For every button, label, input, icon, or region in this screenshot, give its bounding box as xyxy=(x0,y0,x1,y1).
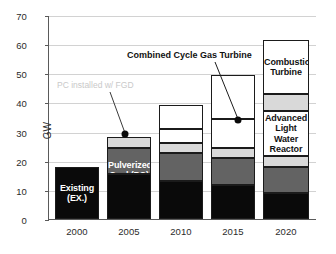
ytick-label-60: 60 xyxy=(1,40,27,51)
ytick-label-30: 30 xyxy=(1,127,27,138)
existing-label-line2: (EX.) xyxy=(67,193,87,203)
annotation-ccgt-title: Combined Cycle Gas Turbine xyxy=(127,50,252,61)
segment-existing-2000[interactable]: Existing (EX.) xyxy=(55,167,99,219)
xtick-label-2010: 2010 xyxy=(159,226,203,237)
annotation-dot-2015 xyxy=(235,117,242,124)
ytick-20 xyxy=(45,162,49,163)
bar-2010[interactable] xyxy=(159,105,203,219)
segment-combustion-turbine-2010[interactable] xyxy=(159,105,203,128)
segment-pulverized-coal-2010[interactable] xyxy=(159,153,203,181)
alwr-label-line3: Reactor xyxy=(270,144,303,154)
segment-fgd-2020[interactable] xyxy=(263,156,309,167)
segment-ccgt-2010[interactable] xyxy=(159,129,203,144)
xtick-label-2015: 2015 xyxy=(211,226,255,237)
segment-label-pulverized-coal: Pulverized Coal (PC) xyxy=(108,160,150,174)
pc-label-line2: Coal (PC) xyxy=(109,170,149,174)
segment-existing-2005[interactable] xyxy=(107,174,151,219)
pc-label-line1: Pulverized xyxy=(108,160,151,170)
ytick-50 xyxy=(45,74,49,75)
segment-ccgt-2015[interactable] xyxy=(211,119,255,148)
ytick-label-20: 20 xyxy=(1,156,27,167)
alwr-label-line1: Advanced xyxy=(265,113,307,123)
xtick-label-2005: 2005 xyxy=(107,226,151,237)
ytick-10 xyxy=(45,191,49,192)
ytick-0 xyxy=(45,220,49,221)
segment-fgd-2015[interactable] xyxy=(211,148,255,158)
plot-area: 70 60 50 40 30 20 10 0 GW Existing (EX.) xyxy=(48,16,316,220)
segment-combustion-turbine-2020[interactable]: Combustion Turbine xyxy=(263,40,309,94)
segment-fgd-2005[interactable] xyxy=(107,137,151,147)
stacked-bar-chart: 70 60 50 40 30 20 10 0 GW Existing (EX.) xyxy=(0,0,336,254)
ytick-40 xyxy=(45,103,49,104)
alwr-label-line2: Light Water xyxy=(274,123,298,144)
bar-2015[interactable] xyxy=(211,75,255,219)
segment-existing-2010[interactable] xyxy=(159,181,203,219)
segment-label-combustion-turbine: Combustion Turbine xyxy=(264,56,308,77)
ytick-60 xyxy=(45,45,49,46)
segment-fgd-2010[interactable] xyxy=(159,143,203,153)
segment-label-existing: Existing (EX.) xyxy=(56,182,98,203)
segment-pulverized-coal-2005[interactable]: Pulverized Coal (PC) xyxy=(107,148,151,174)
bar-2000[interactable]: Existing (EX.) xyxy=(55,167,99,219)
gridline-70 xyxy=(49,16,316,17)
annotation-fgd-faded: PC installed w/ FGD xyxy=(57,80,134,90)
combustion-label-line1: Combustion xyxy=(264,56,309,66)
segment-fgd-upper-2020[interactable] xyxy=(263,94,309,111)
ytick-label-70: 70 xyxy=(1,11,27,22)
existing-label-line1: Existing xyxy=(60,182,94,192)
y-axis-title: GW xyxy=(42,122,53,139)
segment-alwr-2020[interactable]: Advanced Light Water Reactor xyxy=(263,111,309,156)
ytick-label-40: 40 xyxy=(1,98,27,109)
ytick-label-10: 10 xyxy=(1,185,27,196)
segment-pulverized-coal-2015[interactable] xyxy=(211,158,255,185)
ytick-label-0: 0 xyxy=(1,215,27,226)
segment-existing-2020[interactable] xyxy=(263,193,309,219)
segment-pulverized-coal-2020[interactable] xyxy=(263,167,309,193)
xtick-label-2000: 2000 xyxy=(55,226,99,237)
bar-2005[interactable]: Pulverized Coal (PC) xyxy=(107,137,151,219)
segment-combustion-turbine-2015[interactable] xyxy=(211,75,255,119)
segment-label-alwr: Advanced Light Water Reactor xyxy=(264,113,308,155)
ytick-label-50: 50 xyxy=(1,69,27,80)
annotation-dot-2005 xyxy=(122,131,129,138)
bar-2020[interactable]: Advanced Light Water Reactor Combustion … xyxy=(263,40,309,219)
ytick-70 xyxy=(45,16,49,17)
xtick-label-2020: 2020 xyxy=(263,226,309,237)
combustion-label-line2: Turbine xyxy=(270,67,302,77)
segment-existing-2015[interactable] xyxy=(211,185,255,219)
